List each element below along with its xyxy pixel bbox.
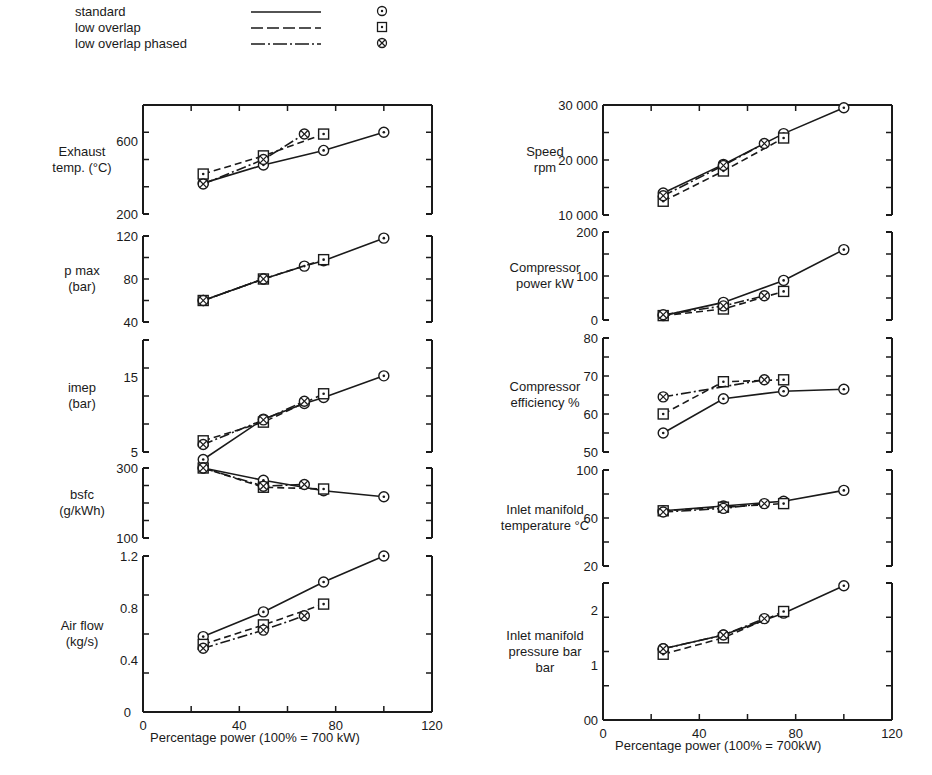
series-line [203, 468, 384, 497]
series-line [203, 376, 384, 460]
series-line [663, 380, 764, 397]
chart-panel: 50607080Compressorefficiency % [510, 331, 892, 460]
chart-panel: 515imep(bar) [68, 340, 432, 464]
y-axis-label: Speed [526, 144, 564, 159]
y-tick-label: 600 [116, 134, 138, 149]
y-axis-label: imep [68, 380, 96, 395]
y-tick-label: 200 [116, 207, 138, 222]
y-axis-label: temp. (°C) [52, 160, 111, 175]
y-axis-label: bsfc [70, 487, 94, 502]
y-tick-label: 120 [116, 229, 138, 244]
y-tick-label: 5 [131, 445, 138, 460]
y-axis-label: bar [536, 660, 555, 675]
series-line [663, 619, 764, 649]
y-axis-label: temperature °C [501, 518, 589, 533]
x-tick-label: 120 [881, 726, 903, 741]
y-tick-label: 30 000 [558, 98, 598, 113]
chart-panel: 100300bsfc(g/kWh) [59, 461, 432, 546]
y-tick-label: 0.4 [120, 653, 138, 668]
y-tick-label: 100 [576, 463, 598, 478]
y-tick-label: 20 [584, 559, 598, 574]
series-line [203, 556, 384, 637]
series-line [663, 144, 764, 196]
y-axis-label: Compressor [510, 379, 581, 394]
y-tick-label: 2 [591, 603, 598, 618]
chart-panel: 012Inlet manifoldpressure barbar04080120… [506, 581, 903, 741]
y-axis-label: efficiency % [510, 395, 580, 410]
y-tick-label: 40 [124, 315, 138, 330]
y-tick-label: 20 000 [558, 153, 598, 168]
series-line [203, 401, 304, 444]
chart-panel: 2060100Inlet manifoldtemperature °C [501, 463, 892, 574]
y-tick-label: 0 [124, 705, 131, 720]
y-axis-label: power kW [516, 276, 575, 291]
y-axis-label: (kg/s) [66, 634, 99, 649]
x-axis-title-right: Percentage power (100% = 700kW) [615, 738, 821, 753]
chart-panel: 0.40.81.2Air flow(kg/s)040801200 [61, 549, 443, 733]
y-axis-label: p max [64, 263, 100, 278]
series-line [663, 586, 844, 649]
y-tick-label: 0 [591, 713, 598, 728]
y-tick-label: 10 000 [558, 208, 598, 223]
y-tick-label: 1 [591, 658, 598, 673]
x-tick-label: 0 [599, 726, 606, 741]
y-tick-label: 15 [124, 370, 138, 385]
series-line [663, 389, 844, 433]
chart-area: 200600Exhausttemp. (°C)4080120p max(bar)… [0, 0, 932, 775]
y-axis-label: pressure bar [509, 644, 583, 659]
y-axis-label: Inlet manifold [506, 502, 583, 517]
chart-panel: 10 00020 00030 000Speedrpm [526, 98, 892, 223]
y-axis-label: Inlet manifold [506, 628, 583, 643]
chart-panel: 4080120p max(bar) [64, 229, 432, 330]
y-axis-label: (bar) [68, 396, 95, 411]
y-axis-label: (bar) [68, 279, 95, 294]
chart-panel: 200600Exhausttemp. (°C) [52, 105, 432, 222]
y-tick-label: 80 [584, 331, 598, 346]
chart-panel: 0100200Compressorpower kW [510, 225, 892, 328]
y-tick-label: 200 [576, 225, 598, 240]
y-tick-label: 300 [116, 461, 138, 476]
y-tick-label: 60 [584, 407, 598, 422]
y-tick-label: 50 [584, 445, 598, 460]
x-tick-label: 120 [421, 718, 443, 733]
y-axis-label: Exhaust [59, 144, 106, 159]
y-axis-label: Air flow [61, 618, 104, 633]
x-tick-label: 0 [139, 718, 146, 733]
y-tick-label: 1.2 [120, 549, 138, 564]
series-line [663, 250, 844, 316]
series-line [203, 616, 304, 649]
y-tick-label: 100 [116, 531, 138, 546]
y-tick-label: 70 [584, 369, 598, 384]
series-line [663, 108, 844, 193]
y-axis-label: Compressor [510, 260, 581, 275]
y-tick-label: 80 [124, 272, 138, 287]
x-axis-title-left: Percentage power (100% = 700 kW) [150, 730, 360, 745]
series-line [203, 279, 263, 301]
series-line [203, 132, 384, 183]
y-axis-label: rpm [534, 160, 556, 175]
y-tick-label: 0.8 [120, 601, 138, 616]
y-axis-label: (g/kWh) [59, 503, 105, 518]
y-tick-label: 0 [584, 713, 591, 728]
series-line [663, 490, 844, 510]
y-tick-label: 0 [591, 313, 598, 328]
